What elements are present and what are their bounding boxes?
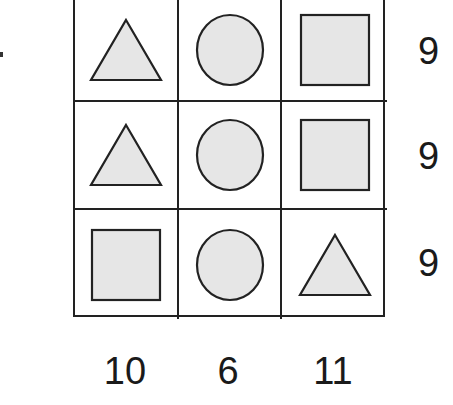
grid-cell-r1-c2 bbox=[179, 0, 282, 102]
row-sum-3: 9 bbox=[418, 244, 439, 282]
grid-cell-r1-c1 bbox=[75, 0, 179, 102]
triangle-icon bbox=[88, 122, 164, 188]
grid-cell-r2-c1 bbox=[75, 102, 179, 210]
row-sum-1: 9 bbox=[418, 32, 439, 70]
shape-grid bbox=[73, 0, 385, 317]
triangle-icon bbox=[297, 232, 373, 298]
circle-icon bbox=[194, 227, 266, 303]
square-icon bbox=[299, 13, 371, 87]
square-icon bbox=[299, 118, 371, 192]
column-sum-3: 11 bbox=[283, 352, 383, 390]
stray-mark bbox=[0, 52, 3, 57]
column-sum-1: 10 bbox=[75, 352, 175, 390]
row-sum-2: 9 bbox=[418, 137, 439, 175]
grid-cell-r3-c3 bbox=[282, 210, 387, 319]
grid-cell-r3-c1 bbox=[75, 210, 179, 319]
grid-cell-r2-c3 bbox=[282, 102, 387, 210]
triangle-icon bbox=[88, 17, 164, 83]
grid-cell-r1-c3 bbox=[282, 0, 387, 102]
circle-icon bbox=[194, 117, 266, 193]
circle-icon bbox=[194, 12, 266, 88]
square-icon bbox=[90, 228, 162, 302]
grid-cell-r2-c2 bbox=[179, 102, 282, 210]
column-sum-2: 6 bbox=[178, 352, 278, 390]
grid-cell-r3-c2 bbox=[179, 210, 282, 319]
